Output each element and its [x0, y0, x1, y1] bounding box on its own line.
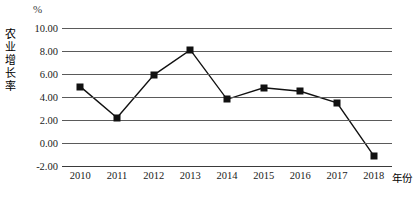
y-axis-tick-label: -2.00 [24, 161, 58, 172]
y-axis-title: 农业增长率 [2, 28, 18, 148]
y-axis-tick-label: 4.00 [24, 92, 58, 103]
x-axis-tick-label: 2012 [143, 170, 164, 181]
x-axis-tick-label: 2011 [107, 170, 128, 181]
data-point-marker [114, 114, 121, 121]
x-axis-tick-label: 2018 [363, 170, 384, 181]
y-axis-unit-label: % [33, 3, 42, 15]
x-axis-tick-label: 2017 [327, 170, 348, 181]
gridline [62, 143, 392, 144]
data-point-marker [187, 46, 194, 53]
y-axis-tick-label: 6.00 [24, 69, 58, 80]
y-axis-tick-label: 10.00 [24, 23, 58, 34]
y-axis-tick-labels: 10.008.006.004.002.000.00-2.00 [20, 28, 58, 166]
y-axis-tick-label: 0.00 [24, 138, 58, 149]
x-axis-tick-label: 2010 [70, 170, 91, 181]
x-axis-tick-label: 2016 [290, 170, 311, 181]
plot-area [62, 28, 392, 166]
gridline [62, 74, 392, 75]
y-axis-tick-label: 8.00 [24, 46, 58, 57]
data-point-marker [334, 99, 341, 106]
data-point-marker [260, 84, 267, 91]
data-point-marker [297, 88, 304, 95]
gridline [62, 166, 392, 167]
data-point-marker [77, 83, 84, 90]
gridline [62, 120, 392, 121]
gridline [62, 51, 392, 52]
x-axis-tick-label: 2015 [253, 170, 274, 181]
y-axis-tick-label: 2.00 [24, 115, 58, 126]
x-axis-tick-labels: 201020112012201320142015201620172018 [62, 170, 392, 186]
gridline [62, 28, 392, 29]
data-point-marker [150, 72, 157, 79]
data-point-marker [224, 96, 231, 103]
data-point-marker [370, 152, 377, 159]
x-axis-title: 年份 [392, 170, 412, 185]
x-axis-tick-label: 2014 [217, 170, 238, 181]
x-axis-tick-label: 2013 [180, 170, 201, 181]
chart-figure: % 农业增长率 10.008.006.004.002.000.00-2.00 2… [0, 0, 417, 202]
